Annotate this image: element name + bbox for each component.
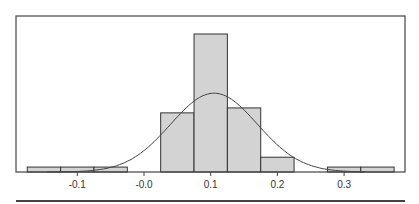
x-tick-label: 0.2 <box>270 179 284 190</box>
x-tick-label: 0.1 <box>204 179 218 190</box>
x-axis-ticks: -0.1-0.00.10.20.3 <box>69 172 352 190</box>
histogram-bar <box>27 167 60 172</box>
x-tick-label: 0.3 <box>337 179 351 190</box>
histogram-bar <box>194 34 227 172</box>
histogram-bars <box>27 34 394 172</box>
histogram-chart: -0.1-0.00.10.20.3 <box>0 0 419 204</box>
histogram-bar <box>227 108 260 172</box>
histogram-bar <box>361 167 394 172</box>
x-tick-label: -0.1 <box>69 179 87 190</box>
x-tick-label: -0.0 <box>135 179 153 190</box>
histogram-bar <box>261 157 294 172</box>
histogram-bar <box>161 113 194 172</box>
bottom-rule <box>16 200 405 202</box>
